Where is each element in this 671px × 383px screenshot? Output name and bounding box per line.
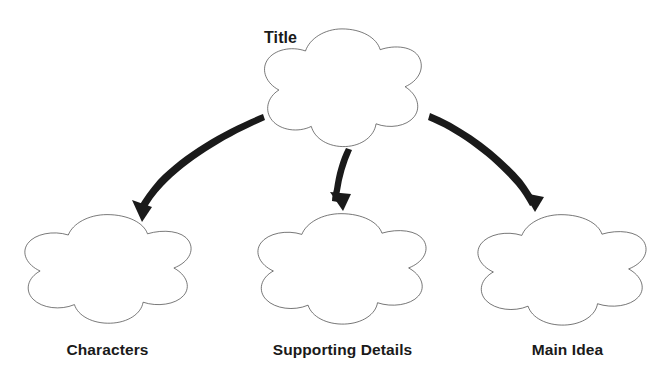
node-label-main-idea: Main Idea <box>465 341 670 359</box>
flower-icon <box>478 215 646 325</box>
diagram-canvas <box>0 0 671 383</box>
node-supporting-details-shape[interactable] <box>258 214 426 324</box>
node-main-idea-shape[interactable] <box>478 215 646 325</box>
flower-icon <box>258 214 426 324</box>
node-label-title: Title <box>264 29 297 47</box>
node-characters-shape[interactable] <box>25 215 191 324</box>
flower-icon <box>25 215 191 324</box>
node-label-characters: Characters <box>0 341 215 359</box>
node-label-supporting-details: Supporting Details <box>240 341 445 359</box>
arrow-to-main-idea-icon <box>428 113 544 212</box>
arrow-to-characters-icon <box>132 114 265 222</box>
arrow-to-supporting-details-icon <box>330 148 352 211</box>
